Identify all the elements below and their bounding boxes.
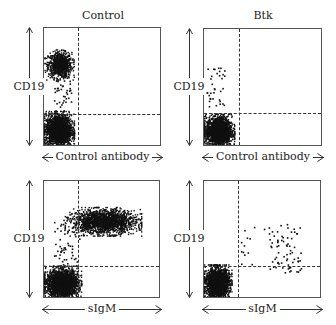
gate-line-horizontal <box>204 113 321 114</box>
arrow-left-icon <box>202 305 209 314</box>
y-axis-label: CD19 <box>173 230 205 247</box>
scatter-points <box>204 181 321 298</box>
y-axis-label: CD19 <box>13 78 45 95</box>
column-title-btk: Btk <box>203 9 323 22</box>
gate-line-vertical <box>238 181 239 297</box>
scatter-plot-sigm-control <box>43 180 160 298</box>
arrow-left-icon <box>42 305 49 314</box>
arrow-down-icon <box>26 291 33 298</box>
scatter-plot-control-antibody-btk <box>203 28 322 146</box>
gate-line-vertical <box>239 29 240 145</box>
arrow-up-icon <box>26 27 33 34</box>
arrow-right-icon <box>317 153 324 162</box>
x-axis-label: Control antibody <box>213 150 313 164</box>
x-axis-arrow: sIgM <box>202 302 323 316</box>
arrow-left-icon <box>202 153 209 162</box>
scatter-points <box>44 28 161 146</box>
arrow-up-icon <box>186 180 193 187</box>
y-axis-label: CD19 <box>13 230 45 247</box>
scatter-plot-sigm-btk <box>203 180 321 298</box>
arrow-down-icon <box>186 139 193 146</box>
scatter-plot-control-antibody-control <box>43 27 161 146</box>
x-axis-label: sIgM <box>245 302 279 316</box>
arrow-right-icon <box>316 305 323 314</box>
gate-line-horizontal <box>204 266 320 267</box>
y-axis-label: CD19 <box>173 78 205 95</box>
column-title-control: Control <box>43 9 163 22</box>
arrow-up-icon <box>26 180 33 187</box>
scatter-points <box>204 29 322 146</box>
gate-line-vertical <box>78 181 79 297</box>
gate-line-horizontal <box>44 114 160 115</box>
x-axis-arrow: Control antibody <box>42 150 163 164</box>
x-axis-label: Control antibody <box>53 150 153 164</box>
arrow-up-icon <box>186 28 193 35</box>
arrow-right-icon <box>156 153 163 162</box>
arrow-down-icon <box>26 139 33 146</box>
scatter-points <box>44 181 160 298</box>
arrow-right-icon <box>155 305 162 314</box>
x-axis-arrow: sIgM <box>42 302 162 316</box>
gate-line-vertical <box>78 28 79 145</box>
arrow-left-icon <box>42 153 49 162</box>
gate-line-horizontal <box>44 266 159 267</box>
x-axis-arrow: Control antibody <box>202 150 324 164</box>
x-axis-label: sIgM <box>85 302 119 316</box>
arrow-down-icon <box>186 291 193 298</box>
